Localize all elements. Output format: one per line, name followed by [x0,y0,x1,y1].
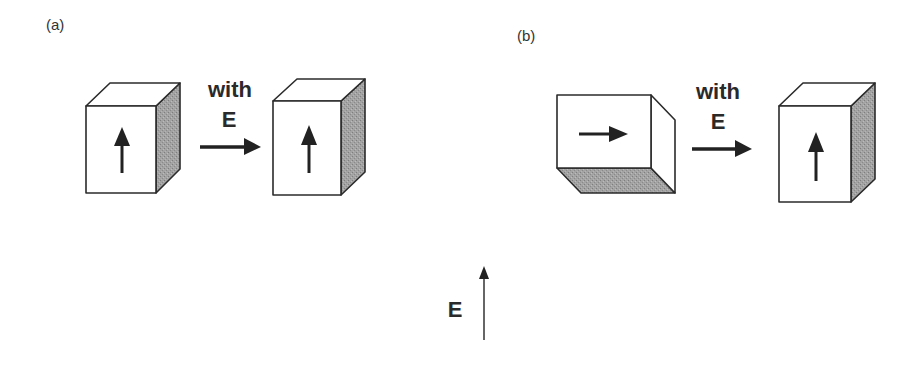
panel-a-field-label: E [222,107,237,132]
front-face [273,101,341,195]
front-face [557,95,651,168]
panel-b-with-label: with [695,79,740,104]
panel-a-after-box [273,79,365,195]
panel-a-with-label: with [207,77,252,102]
diagram-canvas: (a) with E (b) with E [0,0,916,376]
panel-b-before-box [557,95,675,193]
panel-b-transition-arrow-icon [692,140,752,157]
panel-a-before-box [86,83,180,193]
panel-a-label: (a) [46,16,64,33]
panel-a-transition-arrow-icon [200,138,261,155]
field-direction-up-arrow-icon [479,266,489,340]
field-indicator-label: E [448,297,463,322]
panel-b-field-label: E [711,109,726,134]
panel-b-after-box [779,83,875,202]
panel-b-label: (b) [517,27,535,44]
